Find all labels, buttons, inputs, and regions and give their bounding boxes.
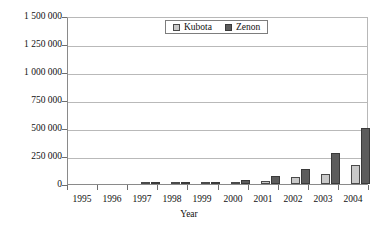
legend-swatch-icon xyxy=(225,24,232,31)
bar-kubota-1998 xyxy=(231,182,240,184)
bar-zenon-2000 xyxy=(301,169,310,184)
chart-legend: KubotaZenon xyxy=(165,20,268,34)
bar-kubota-2000 xyxy=(291,177,300,184)
gridline xyxy=(68,46,367,47)
plot-area xyxy=(67,17,368,185)
y-tick-mark xyxy=(62,129,67,130)
bar-zenon-1999 xyxy=(271,176,280,184)
bar-chart: 0250 000500 000750 0001 000 0001 250 000… xyxy=(0,0,378,229)
y-tick-label: 1 250 000 xyxy=(0,40,62,50)
legend-label: Zenon xyxy=(236,22,260,32)
x-tick-mark xyxy=(157,185,158,190)
bar-zenon-1995 xyxy=(151,182,160,184)
legend-swatch-icon xyxy=(173,24,180,31)
bar-zenon-1998 xyxy=(241,180,250,184)
bar-kubota-1999 xyxy=(261,181,270,184)
x-tick-mark xyxy=(127,185,128,190)
x-tick-mark xyxy=(67,185,68,190)
bar-kubota-2002 xyxy=(351,165,360,184)
bar-zenon-2001 xyxy=(331,153,340,184)
y-tick-label: 1 000 000 xyxy=(0,68,62,78)
bar-kubota-1995 xyxy=(141,182,150,184)
x-tick-mark xyxy=(187,185,188,190)
gridline xyxy=(68,130,367,131)
y-tick-mark xyxy=(62,73,67,74)
bar-kubota-1997 xyxy=(201,182,210,184)
y-tick-label: 1 500 000 xyxy=(0,12,62,22)
bar-zenon-1997 xyxy=(211,182,220,184)
bar-zenon-1996 xyxy=(181,182,190,184)
y-tick-mark xyxy=(62,101,67,102)
legend-entry-zenon: Zenon xyxy=(225,22,260,32)
y-tick-label: 750 000 xyxy=(0,96,62,106)
bar-zenon-2002 xyxy=(361,128,370,184)
y-tick-mark xyxy=(62,45,67,46)
y-tick-label: 0 xyxy=(0,180,62,190)
x-tick-mark xyxy=(278,185,279,190)
gridline xyxy=(68,158,367,159)
gridline xyxy=(68,102,367,103)
x-axis-title: Year xyxy=(0,209,378,220)
y-tick-mark xyxy=(62,17,67,18)
bar-kubota-1996 xyxy=(171,182,180,184)
bar-kubota-2001 xyxy=(321,174,330,184)
y-tick-mark xyxy=(62,157,67,158)
x-tick-mark xyxy=(248,185,249,190)
x-tick-mark xyxy=(218,185,219,190)
legend-label: Kubota xyxy=(184,22,212,32)
x-tick-label: 2004 xyxy=(333,194,373,205)
y-tick-label: 500 000 xyxy=(0,124,62,134)
y-tick-label: 250 000 xyxy=(0,152,62,162)
x-tick-mark xyxy=(308,185,309,190)
x-tick-mark xyxy=(368,185,369,190)
x-tick-mark xyxy=(338,185,339,190)
x-tick-mark xyxy=(97,185,98,190)
gridline xyxy=(68,74,367,75)
legend-entry-kubota: Kubota xyxy=(173,22,212,32)
